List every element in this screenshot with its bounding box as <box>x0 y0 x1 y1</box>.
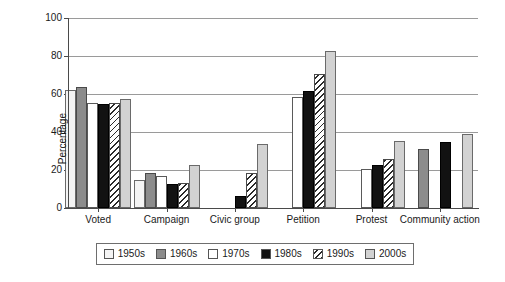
legend-item-1990s[interactable]: 1990s <box>313 249 354 259</box>
bar-group <box>65 18 131 208</box>
legend-swatch-icon <box>156 249 166 259</box>
x-tick-label: Voted <box>85 214 111 226</box>
bar <box>372 165 383 208</box>
bar <box>314 74 325 208</box>
bar <box>189 165 200 208</box>
x-tick-mark <box>167 208 168 212</box>
x-tick-mark <box>235 208 236 212</box>
y-tick-label: 0 <box>56 203 62 213</box>
bar <box>134 180 145 209</box>
legend-item-1980s[interactable]: 1980s <box>261 249 302 259</box>
legend-label: 2000s <box>379 249 406 259</box>
plot-area: 020406080100 Percentage <box>68 18 478 208</box>
x-tick-label: Petition <box>286 214 319 226</box>
bar <box>145 173 156 208</box>
x-axis-line <box>68 208 479 209</box>
legend-label: 1950s <box>118 249 145 259</box>
y-axis-line <box>68 18 69 209</box>
legend-label: 1980s <box>275 249 302 259</box>
bar <box>361 169 372 208</box>
bar <box>246 173 257 208</box>
legend-swatch-icon <box>104 249 114 259</box>
legend-label: 1970s <box>222 249 249 259</box>
bar <box>440 142 451 209</box>
bar-group <box>339 18 405 208</box>
bar <box>76 87 87 208</box>
x-tick-label: Community action <box>400 214 480 226</box>
legend-label: 1960s <box>170 249 197 259</box>
legend-swatch-icon <box>365 249 375 259</box>
bar <box>98 104 109 208</box>
bar <box>418 149 429 208</box>
bar-group <box>270 18 336 208</box>
bar-group <box>202 18 268 208</box>
chart-legend: 1950s1960s1970s1980s1990s2000s <box>96 243 414 265</box>
bar <box>167 184 178 208</box>
x-tick-mark <box>372 208 373 212</box>
bar <box>257 144 268 208</box>
legend-label: 1990s <box>327 249 354 259</box>
x-tick-label: Protest <box>356 214 388 226</box>
legend-item-2000s[interactable]: 2000s <box>365 249 406 259</box>
bar <box>303 91 314 208</box>
y-tick-label: 80 <box>51 51 62 61</box>
bar <box>178 183 189 208</box>
bar <box>383 159 394 208</box>
bar <box>87 103 98 208</box>
x-tick-mark <box>98 208 99 212</box>
x-tick-label: Campaign <box>144 214 190 226</box>
bar <box>235 196 246 208</box>
bar <box>394 141 405 208</box>
legend-swatch-icon <box>208 249 218 259</box>
bar-chart-figure: 020406080100 Percentage VotedCampaignCiv… <box>0 0 505 282</box>
bar-group <box>407 18 473 208</box>
x-tick-mark <box>303 208 304 212</box>
y-tick-label: 20 <box>51 165 62 175</box>
bar <box>462 134 473 208</box>
legend-item-1960s[interactable]: 1960s <box>156 249 197 259</box>
bar <box>292 97 303 208</box>
legend-item-1950s[interactable]: 1950s <box>104 249 145 259</box>
x-tick-mark <box>440 208 441 212</box>
x-tick-label: Civic group <box>210 214 260 226</box>
bar <box>156 176 167 208</box>
legend-item-1970s[interactable]: 1970s <box>208 249 249 259</box>
y-tick-label: 60 <box>51 89 62 99</box>
bar <box>120 99 131 208</box>
bar <box>325 51 336 208</box>
legend-swatch-icon <box>261 249 271 259</box>
legend-swatch-icon <box>313 249 323 259</box>
y-axis-label: Percentage <box>57 113 68 164</box>
bar-group <box>134 18 200 208</box>
y-tick-label: 100 <box>45 13 62 23</box>
bar <box>109 103 120 208</box>
